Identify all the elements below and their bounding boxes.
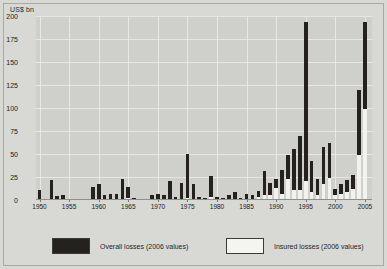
bar-group: [333, 16, 337, 200]
bar-group: [221, 16, 225, 200]
bar-insured-losses: [304, 180, 308, 200]
bar-group: [310, 16, 314, 200]
x-tick-mark: [306, 200, 307, 202]
x-tick-label: 1975: [180, 203, 194, 210]
gridline-vertical: [69, 16, 70, 200]
y-tick-label: 125: [0, 82, 18, 89]
bar-group: [203, 16, 207, 200]
bar-group: [363, 16, 367, 200]
bar-insured-losses: [357, 154, 361, 200]
bar-overall-losses: [97, 184, 101, 200]
x-tick-mark: [128, 200, 129, 202]
x-tick-mark: [335, 200, 336, 202]
bar-group: [144, 16, 148, 200]
bar-group: [322, 16, 326, 200]
y-tick-label: 50: [0, 151, 18, 158]
y-tick-label: 75: [0, 128, 18, 135]
bar-group: [55, 16, 59, 200]
bar-group: [168, 16, 172, 200]
bar-group: [280, 16, 284, 200]
bar-group: [339, 16, 343, 200]
bar-group: [132, 16, 136, 200]
x-axis-baseline: [36, 199, 372, 200]
legend-label-overall: Overall losses (2006 values): [100, 243, 188, 250]
bar-group: [239, 16, 243, 200]
bar-group: [268, 16, 272, 200]
bar-group: [251, 16, 255, 200]
bar-group: [126, 16, 130, 200]
bar-group: [121, 16, 125, 200]
y-tick-label: 200: [0, 13, 18, 20]
legend-swatch-insured: [226, 238, 264, 254]
legend-entry-insured: Insured losses (2006 values): [226, 237, 364, 255]
bar-group: [286, 16, 290, 200]
bar-group: [97, 16, 101, 200]
bar-group: [351, 16, 355, 200]
y-tick-label: 175: [0, 36, 18, 43]
bar-group: [150, 16, 154, 200]
legend-entry-overall: Overall losses (2006 values): [52, 237, 188, 255]
bar-group: [298, 16, 302, 200]
x-tick-mark: [40, 200, 41, 202]
x-tick-label: 1980: [210, 203, 224, 210]
bar-group: [257, 16, 261, 200]
plot-area: [36, 16, 372, 200]
bar-group: [328, 16, 332, 200]
legend-swatch-overall: [52, 238, 90, 254]
x-tick-label: 1960: [91, 203, 105, 210]
bar-group: [103, 16, 107, 200]
bar-group: [162, 16, 166, 200]
y-tick-label: 25: [0, 174, 18, 181]
x-tick-label: 1990: [269, 203, 283, 210]
bar-group: [115, 16, 119, 200]
y-tick-label: 0: [0, 197, 18, 204]
legend-label-insured: Insured losses (2006 values): [274, 243, 364, 250]
x-tick-label: 1955: [62, 203, 76, 210]
bar-group: [245, 16, 249, 200]
bar-group: [109, 16, 113, 200]
bar-group: [91, 16, 95, 200]
x-tick-label: 2000: [328, 203, 342, 210]
bar-group: [180, 16, 184, 200]
bar-group: [215, 16, 219, 200]
bar-overall-losses: [168, 181, 172, 200]
bar-overall-losses: [186, 154, 190, 200]
x-tick-mark: [99, 200, 100, 202]
bar-group: [38, 16, 42, 200]
bar-group: [345, 16, 349, 200]
x-tick-mark: [69, 200, 70, 202]
bar-group: [263, 16, 267, 200]
bar-group: [227, 16, 231, 200]
y-tick-label: 100: [0, 105, 18, 112]
bar-group: [209, 16, 213, 200]
bar-overall-losses: [121, 179, 125, 200]
bar-group: [186, 16, 190, 200]
x-tick-mark: [187, 200, 188, 202]
chart-legend: Overall losses (2006 values) Insured los…: [14, 237, 374, 259]
x-tick-mark: [365, 200, 366, 202]
x-tick-label: 1970: [151, 203, 165, 210]
bar-insured-losses: [286, 178, 290, 200]
bar-group: [233, 16, 237, 200]
bar-overall-losses: [304, 22, 308, 200]
y-tick-label: 150: [0, 59, 18, 66]
bar-overall-losses: [192, 184, 196, 200]
bar-group: [292, 16, 296, 200]
x-tick-mark: [247, 200, 248, 202]
bar-insured-losses: [328, 177, 332, 200]
bar-insured-losses: [322, 183, 326, 200]
x-tick-mark: [276, 200, 277, 202]
bar-group: [274, 16, 278, 200]
bar-group: [357, 16, 361, 200]
bar-group: [50, 16, 54, 200]
bar-overall-losses: [180, 183, 184, 200]
chart-figure: US$ bn 0255075100125150175200 1950195519…: [0, 0, 387, 269]
bar-group: [174, 16, 178, 200]
bar-insured-losses: [363, 108, 367, 200]
x-tick-label: 2005: [358, 203, 372, 210]
bar-group: [304, 16, 308, 200]
bar-group: [197, 16, 201, 200]
x-tick-mark: [217, 200, 218, 202]
bar-overall-losses: [50, 180, 54, 200]
bar-group: [85, 16, 89, 200]
